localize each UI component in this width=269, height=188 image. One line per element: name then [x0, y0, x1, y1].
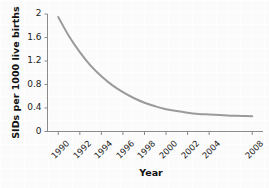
- y-tick-label: 1.6: [27, 33, 41, 42]
- x-tick-marks: [58, 132, 252, 136]
- y-axis-title: SIDs per 1000 live births: [11, 15, 21, 139]
- y-tick-label: 1.2: [27, 56, 41, 65]
- chart-container: 00.40.81.21.62 1990199219941996199820002…: [0, 0, 269, 188]
- axis-lines: [47, 14, 263, 132]
- y-tick-label: 0.8: [27, 80, 41, 89]
- y-tick-label: 0.4: [27, 103, 41, 112]
- x-axis-title: Year: [40, 168, 262, 178]
- y-tick-label: 2: [36, 9, 42, 18]
- data-series-line: [58, 17, 252, 116]
- y-tick-label: 0: [36, 127, 42, 136]
